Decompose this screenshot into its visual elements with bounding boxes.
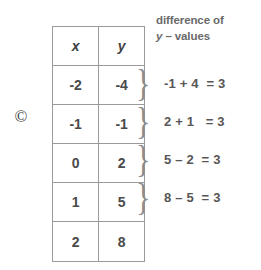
cell-x: -1 — [53, 105, 99, 144]
brace-icon: } — [136, 102, 150, 140]
worksheet-figure: © difference of y – values x y -2 -4 -1 … — [0, 0, 261, 270]
difference-equation: 5 – 2 = 3 — [164, 152, 221, 167]
table-header-row: x y — [53, 27, 145, 66]
brace-icon: } — [136, 178, 150, 216]
difference-group: } 2 + 1 = 3 — [136, 102, 225, 140]
table-row: 2 8 — [53, 222, 145, 261]
caption-line-2: y – values — [156, 28, 258, 44]
cell-y: 8 — [99, 222, 145, 261]
copyright-icon: © — [11, 107, 31, 127]
difference-equation: 2 + 1 = 3 — [164, 114, 225, 129]
table-row: 0 2 — [53, 144, 145, 183]
difference-equation: 8 – 5 = 3 — [164, 190, 221, 205]
caption-line-2-rest: – values — [162, 30, 210, 42]
brace-icon: } — [136, 64, 150, 102]
xy-value-table: x y -2 -4 -1 -1 0 2 1 5 2 8 — [52, 26, 145, 262]
caption-line-1: difference of — [156, 12, 258, 28]
column-header-x: x — [53, 27, 99, 66]
table-row: 1 5 — [53, 183, 145, 222]
column-header-y: y — [99, 27, 145, 66]
cell-x: 1 — [53, 183, 99, 222]
table-row: -1 -1 — [53, 105, 145, 144]
difference-group: } 5 – 2 = 3 — [136, 140, 221, 178]
difference-group: } -1 + 4 = 3 — [136, 64, 225, 102]
table-row: -2 -4 — [53, 66, 145, 105]
difference-group: } 8 – 5 = 3 — [136, 178, 221, 216]
caption-block: difference of y – values — [156, 12, 258, 44]
cell-x: -2 — [53, 66, 99, 105]
difference-equation: -1 + 4 = 3 — [164, 76, 225, 91]
brace-icon: } — [136, 140, 150, 178]
cell-x: 2 — [53, 222, 99, 261]
cell-x: 0 — [53, 144, 99, 183]
